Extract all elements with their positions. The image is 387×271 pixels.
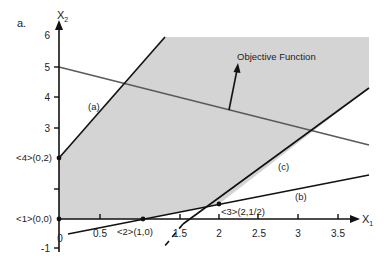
- x-tick-label: 2.5: [252, 228, 266, 239]
- x-tick-label: 3.5: [331, 228, 345, 239]
- feasible-region: [59, 37, 369, 219]
- vertex-label-3: <3>(2,1/2): [221, 206, 265, 217]
- vertex-label-4: <4>(0,2): [16, 152, 52, 163]
- x-tick-label: 2: [216, 228, 222, 239]
- lp-feasible-region-chart: 6 5 4 3 -1 0 0.5 1.5 2 2.5 3 3.5 a. X2 X…: [0, 0, 387, 271]
- objective-function-label: Objective Function: [237, 51, 316, 62]
- x-origin-label: 0: [57, 233, 63, 244]
- y-tick-label: -1: [41, 243, 50, 254]
- y-tick-label: 5: [44, 62, 50, 73]
- line-label-c: (c): [278, 161, 289, 172]
- y-axis-title: X2: [57, 9, 68, 23]
- line-label-a: (a): [88, 101, 100, 112]
- x-axis-arrow-icon: [350, 215, 360, 223]
- y-axis-arrow-icon: [55, 20, 63, 30]
- y-tick-label: 3: [44, 123, 50, 134]
- x-tick-label: 0.5: [93, 228, 107, 239]
- x-tick-label: 3: [295, 228, 301, 239]
- vertex-label-1: <1>(0,0): [16, 213, 52, 224]
- vertex-label-2: <2>(1,0): [117, 226, 153, 237]
- panel-label: a.: [17, 17, 26, 29]
- x-tick-label: 1.5: [173, 228, 187, 239]
- y-tick-label: 6: [44, 30, 50, 41]
- x-axis-title: X1: [362, 213, 373, 227]
- y-tick-label: 4: [44, 92, 50, 103]
- line-label-b: (b): [295, 191, 307, 202]
